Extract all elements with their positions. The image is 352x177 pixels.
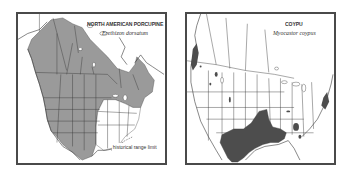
coypu-map-graphic: [187, 14, 334, 163]
map-scientific-name: Erethizon dorsatum: [102, 29, 148, 36]
coypu-range-map: COYPU Myocastor coypus: [185, 12, 336, 165]
map-title: NORTH AMERICAN PORCUPINE: [87, 20, 163, 27]
porcupine-map-graphic: [18, 14, 165, 163]
coypu-range-area-gulf: [220, 109, 286, 162]
map-title: COYPU: [285, 20, 303, 27]
legend-historical-range: historical range limit: [112, 143, 157, 150]
porcupine-range-map: NORTH AMERICAN PORCUPINE Erethizon dorsa…: [16, 12, 167, 165]
coypu-range-area-pacific-northwest: [191, 43, 199, 70]
map-scientific-name: Myocastor coypus: [273, 29, 316, 36]
